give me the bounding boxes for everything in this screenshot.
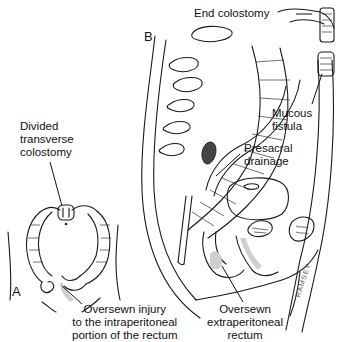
label-oversewn-extraperitoneal-rectum: Oversewn extraperitoneal rectum	[207, 303, 283, 342]
label-line: transverse	[20, 133, 74, 146]
label-line: rectum	[207, 329, 283, 342]
label-line: drainage	[244, 155, 293, 168]
panel-a-abdomen-drawing	[8, 205, 120, 312]
label-line: fistula	[272, 120, 312, 133]
label-line: Presacral	[244, 142, 293, 155]
label-oversewn-injury: Oversewn injury to the intraperitoneal p…	[72, 303, 177, 342]
leader-divided-colostomy	[50, 162, 62, 206]
label-line: to the intraperitoneal	[72, 316, 177, 329]
label-line: Oversewn	[207, 303, 283, 316]
label-line: portion of the rectum	[72, 329, 177, 342]
label-line: Divided	[20, 120, 74, 133]
label-mucous-fistula: Mucous fistula	[272, 107, 312, 133]
panel-letter-a: A	[12, 284, 21, 299]
label-line: extraperitoneal	[207, 316, 283, 329]
label-presacral-drainage: Presacral drainage	[244, 142, 293, 168]
leader-oversewn-extraperitoneal	[222, 266, 243, 302]
label-divided-transverse-colostomy: Divided transverse colostomy	[20, 120, 74, 159]
panel-letter-b: B	[144, 29, 153, 44]
leader-mucous-fistula	[312, 74, 322, 104]
label-line: Oversewn injury	[72, 303, 177, 316]
label-end-colostomy: End colostomy	[194, 7, 269, 20]
label-line: colostomy	[20, 146, 74, 159]
label-line: Mucous	[272, 107, 312, 120]
